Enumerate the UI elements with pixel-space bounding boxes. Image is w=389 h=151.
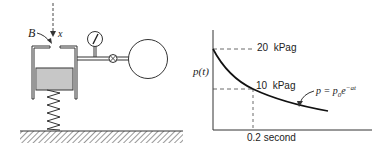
y-mark-20kpag: 20 kPag	[257, 43, 296, 53]
tank	[129, 40, 168, 79]
displacement-label: x	[58, 29, 62, 39]
spring	[47, 90, 60, 130]
bleed-hole-label: B	[28, 27, 35, 39]
apparatus	[20, 3, 183, 143]
valve	[109, 55, 129, 63]
equation-lhs: p = p	[316, 85, 338, 96]
x-mark-label: 0.2 second	[247, 133, 296, 143]
y-mark-20-unit: kPag	[274, 42, 297, 53]
equation-exponent: −at	[346, 84, 356, 92]
y-mark-10kpag: 10 kPag	[256, 81, 295, 91]
y-mark-10-unit: kPag	[273, 80, 296, 91]
y-axis-label: p(t)	[193, 66, 209, 77]
y-mark-10-value: 10	[256, 80, 267, 91]
bleed-hole-pointer	[37, 33, 52, 44]
pressure-gauge	[88, 32, 103, 58]
y-mark-20-value: 20	[257, 42, 268, 53]
equation-pointer	[297, 91, 314, 107]
ground	[20, 131, 183, 143]
bellows	[36, 68, 73, 90]
cylinder	[32, 46, 109, 99]
displacement-arrow	[50, 3, 56, 37]
equation-label: p = p0e−at	[316, 85, 356, 99]
